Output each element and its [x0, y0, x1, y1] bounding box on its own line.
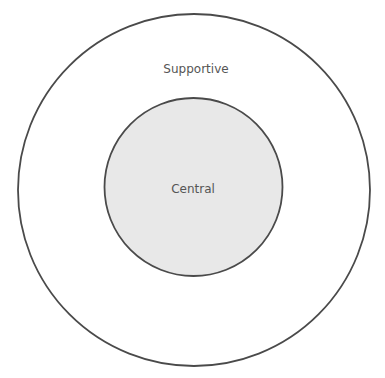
supportive-label: Supportive — [163, 62, 228, 76]
central-label: Central — [171, 182, 215, 196]
concentric-diagram: Supportive Central — [0, 0, 385, 378]
